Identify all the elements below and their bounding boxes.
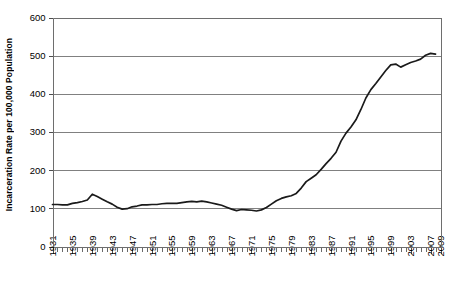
x-tick-label-1979: 1979 — [286, 235, 297, 256]
x-tick-label-1967: 1967 — [226, 235, 237, 256]
x-tick-label-1943: 1943 — [107, 235, 118, 256]
y-tick-label-100: 100 — [30, 203, 46, 214]
plot-background — [52, 17, 440, 246]
x-tick-label-1931: 1931 — [47, 235, 58, 256]
y-tick-label-600: 600 — [30, 12, 46, 23]
x-tick-label-1963: 1963 — [206, 235, 217, 256]
x-tick-label-2003: 2003 — [405, 235, 416, 256]
incarceration-rate-line-chart: Incarceration Rate per 100,000 Populatio… — [0, 0, 457, 297]
x-axis-tick-labels: 1931193519391943194719511955195919631967… — [47, 235, 446, 256]
x-tick-label-1959: 1959 — [186, 235, 197, 256]
y-tick-label-500: 500 — [30, 50, 46, 61]
x-tick-label-1975: 1975 — [266, 235, 277, 256]
x-tick-label-1951: 1951 — [147, 235, 158, 256]
chart-canvas: 0100200300400500600 19311935193919431947… — [0, 0, 457, 297]
x-tick-label-1935: 1935 — [67, 235, 78, 256]
x-tick-label-1955: 1955 — [166, 235, 177, 256]
x-tick-label-1939: 1939 — [87, 235, 98, 256]
x-tick-label-1995: 1995 — [365, 235, 376, 256]
x-tick-label-1983: 1983 — [306, 235, 317, 256]
x-tick-label-1947: 1947 — [127, 235, 138, 256]
y-axis-tick-labels: 0100200300400500600 — [30, 12, 46, 252]
y-axis-ticks — [49, 19, 53, 248]
x-tick-label-1987: 1987 — [326, 235, 337, 256]
x-tick-label-1991: 1991 — [346, 235, 357, 256]
x-tick-label-1999: 1999 — [385, 235, 396, 256]
y-tick-label-0: 0 — [40, 241, 45, 252]
x-tick-label-2009: 2009 — [435, 235, 446, 256]
x-tick-label-1971: 1971 — [246, 235, 257, 256]
y-tick-label-300: 300 — [30, 126, 46, 137]
y-tick-label-400: 400 — [30, 88, 46, 99]
y-tick-label-200: 200 — [30, 165, 46, 176]
